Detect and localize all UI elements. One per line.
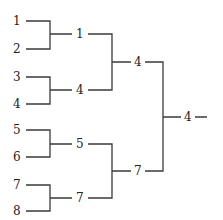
match-connector [50,34,112,90]
champion-label: 4 [184,110,192,124]
winner-label: 7 [76,191,84,205]
seed-label: 2 [13,42,21,56]
seed-label: 4 [13,97,21,111]
match-connector [26,130,50,157]
seed-label: 5 [13,123,21,137]
match-connector [26,185,50,211]
winner-label: 4 [134,55,142,69]
match-connector [26,77,50,104]
match-connector [112,62,163,171]
match-connector [50,144,112,198]
seed-label: 3 [13,70,21,84]
round2-group: 1 4 5 7 [50,27,112,205]
seed-label: 1 [13,14,21,28]
winner-label: 4 [76,83,84,97]
winner-label: 7 [134,164,142,178]
match-connector [26,21,50,49]
round3-group: 4 7 [112,55,163,178]
round1-group: 1 2 3 4 5 6 7 8 [13,14,50,218]
seed-label: 8 [13,204,21,218]
seed-label: 6 [13,150,21,164]
seed-label: 7 [13,178,21,192]
bracket-diagram: 1 2 3 4 5 6 7 8 1 4 5 7 4 7 4 [0,0,223,220]
final-group: 4 [163,110,207,124]
winner-label: 1 [76,27,84,41]
winner-label: 5 [76,137,84,151]
